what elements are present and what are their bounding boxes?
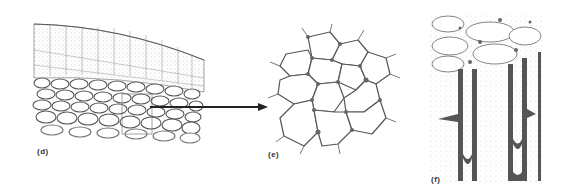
panel-d xyxy=(30,20,210,145)
polygonal-cell-cluster-illustration xyxy=(268,22,403,157)
panel-f xyxy=(430,14,542,184)
tissue-cross-section-illustration xyxy=(30,20,210,145)
arrow-d-to-e xyxy=(150,102,270,112)
panel-e xyxy=(268,22,403,157)
panel-f-label: (f) xyxy=(431,175,441,184)
right-arrow-icon xyxy=(150,102,270,112)
panel-d-label: (d) xyxy=(37,147,49,156)
elongated-cell-illustration xyxy=(430,14,542,184)
panel-e-label: (e) xyxy=(268,150,279,159)
